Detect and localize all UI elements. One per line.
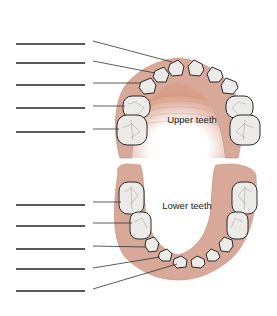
lower-teeth-label: Lower teeth: [162, 200, 212, 211]
upper-arch: Upper teeth: [115, 58, 260, 158]
lower-first-molar-right: [227, 212, 248, 239]
lower-answer-blanks: [16, 205, 85, 291]
upper-second-molar-right: [230, 115, 260, 145]
lower-canine-left: [145, 237, 159, 252]
teeth-diagram: Upper teeth: [0, 0, 277, 316]
lower-arch: Lower teeth: [114, 164, 257, 280]
leader-line-1: [93, 41, 172, 62]
upper-teeth-label: Upper teeth: [167, 114, 217, 125]
lower-first-molar-left: [130, 212, 151, 239]
upper-answer-blanks: [16, 44, 85, 132]
leader-line-2: [93, 61, 155, 73]
